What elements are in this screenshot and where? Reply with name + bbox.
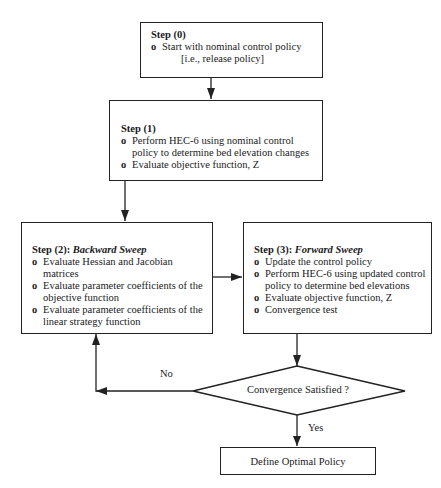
- step0-title: Step (0): [151, 29, 322, 41]
- step2-title-name: Backward Sweep: [73, 244, 147, 255]
- step1-item: Perform HEC-6 using nominal control poli…: [121, 135, 322, 159]
- step2-item: Evaluate parameter coefficients of the o…: [32, 280, 208, 304]
- arrow-no-loop: [96, 334, 193, 391]
- step1-title: Step (1): [121, 123, 322, 135]
- step3-item: Update the control policy: [254, 256, 427, 268]
- step3-title-prefix: Step (3):: [254, 244, 295, 255]
- step2-item: Evaluate parameter coefficients of the l…: [32, 304, 208, 328]
- step3-title-name: Forward Sweep: [295, 244, 363, 255]
- step2-title-prefix: Step (2):: [32, 244, 73, 255]
- no-label: No: [160, 368, 173, 379]
- step0-note: [i.e., release policy]: [151, 53, 322, 65]
- step3-box: Step (3): Forward Sweep Update the contr…: [243, 222, 432, 334]
- step3-item: Convergence test: [254, 304, 427, 316]
- decision-label: Convergence Satisfied ?: [200, 384, 396, 395]
- step3-title: Step (3): Forward Sweep: [254, 244, 427, 256]
- final-box: Define Optimal Policy: [220, 447, 376, 475]
- step3-item: Perform HEC-6 using updated control poli…: [254, 268, 427, 292]
- step3-item: Evaluate objective function, Z: [254, 292, 427, 304]
- final-label: Define Optimal Policy: [250, 456, 345, 467]
- step2-title: Step (2): Backward Sweep: [32, 244, 208, 256]
- step1-item: Evaluate objective function, Z: [121, 159, 322, 171]
- step0-box: Step (0) Start with nominal control poli…: [140, 22, 323, 78]
- yes-label: Yes: [308, 422, 323, 433]
- step2-item: Evaluate Hessian and Jacobian matrices: [32, 256, 208, 280]
- step2-box: Step (2): Backward Sweep Evaluate Hessia…: [21, 222, 213, 334]
- step1-box: Step (1) Perform HEC-6 using nominal con…: [109, 100, 323, 181]
- step0-item: Start with nominal control policy: [151, 41, 322, 53]
